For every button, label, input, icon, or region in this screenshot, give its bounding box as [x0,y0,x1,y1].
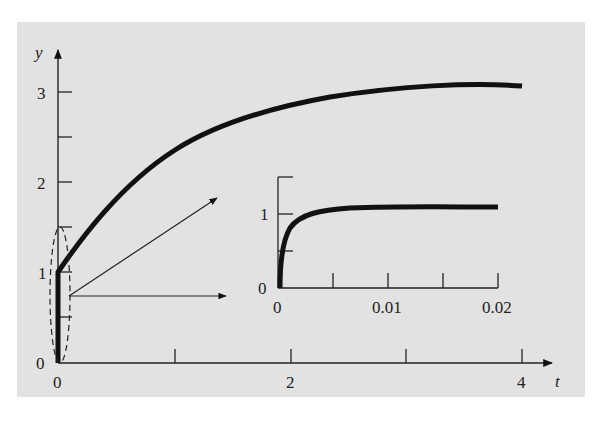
inset-x-tick-label-002: 0.02 [482,298,512,317]
magnify-arrow-upper [69,198,217,296]
inset-curve [280,207,498,288]
y-tick-label-1: 1 [38,264,47,283]
y-tick-label-2: 2 [37,174,46,193]
t-axis-label: t [555,372,561,391]
y-axis-label: y [33,43,43,62]
inset-x-tick-label-0: 0 [273,298,282,317]
inset-x-tick-label-001: 0.01 [372,298,402,317]
y-tick-label-0: 0 [36,354,45,373]
chart-svg: y t 0 1 2 3 0 2 4 0 1 0 0.01 0.02 [0,0,606,426]
inset-axes: 0 1 0 0.01 0.02 [258,177,512,317]
x-tick-label-2: 2 [286,373,295,392]
x-ticks [175,349,522,363]
x-tick-label-4: 4 [517,373,526,392]
y-tick-label-3: 3 [37,84,46,103]
main-curve [58,84,522,363]
inset-y-tick-label-0: 0 [258,279,267,298]
inset-x-ticks [333,273,498,288]
main-axes: y t 0 1 2 3 0 2 4 [33,43,561,392]
inset-y-tick-label-1: 1 [260,205,269,224]
x-tick-label-0: 0 [53,373,62,392]
